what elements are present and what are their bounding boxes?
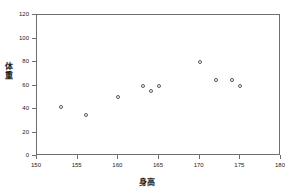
y-tick — [32, 38, 36, 39]
x-axis-title: 身高 — [0, 176, 293, 187]
y-tick-label: 100 — [0, 35, 29, 41]
x-tick-label: 150 — [21, 162, 51, 168]
y-tick — [32, 14, 36, 15]
data-point — [214, 78, 218, 82]
x-tick-label: 170 — [184, 162, 214, 168]
y-tick-label: 0 — [0, 152, 29, 158]
y-tick-label: 40 — [0, 105, 29, 111]
data-point — [84, 113, 88, 117]
x-tick-label: 165 — [143, 162, 173, 168]
scatter-chart: 体重 020406080100120 150155160165170175180… — [0, 0, 293, 196]
data-point — [238, 84, 242, 88]
data-point — [198, 60, 202, 64]
y-tick — [32, 108, 36, 109]
y-tick — [32, 85, 36, 86]
y-tick-label: 60 — [0, 82, 29, 88]
y-tick-label: 80 — [0, 58, 29, 64]
y-axis-title: 体重 — [2, 62, 16, 80]
y-tick-label: 20 — [0, 129, 29, 135]
x-tick — [77, 155, 78, 159]
x-tick-label: 155 — [62, 162, 92, 168]
x-tick — [158, 155, 159, 159]
x-tick-label: 175 — [224, 162, 254, 168]
data-point — [230, 78, 234, 82]
y-tick — [32, 61, 36, 62]
data-point — [149, 89, 153, 93]
x-tick — [239, 155, 240, 159]
y-tick — [32, 132, 36, 133]
x-tick — [117, 155, 118, 159]
x-tick — [280, 155, 281, 159]
y-tick-label: 120 — [0, 11, 29, 17]
x-tick — [199, 155, 200, 159]
plot-area — [36, 14, 280, 155]
data-point — [157, 84, 161, 88]
x-tick-label: 160 — [102, 162, 132, 168]
data-point — [116, 95, 120, 99]
data-point — [141, 84, 145, 88]
data-point — [59, 105, 63, 109]
x-tick — [36, 155, 37, 159]
x-tick-label: 180 — [265, 162, 293, 168]
